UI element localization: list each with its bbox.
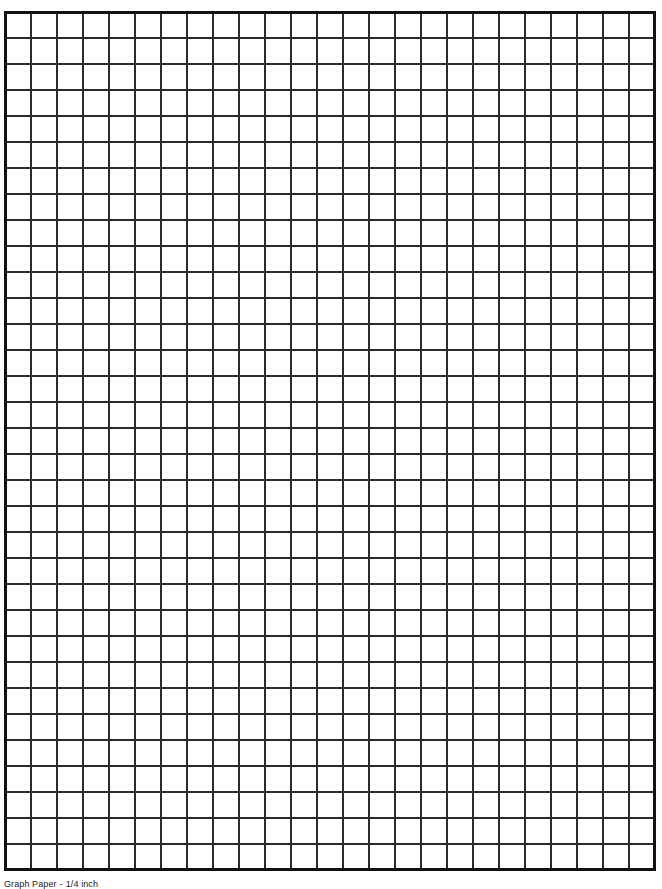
footer-caption: Graph Paper-1/4 inch xyxy=(4,879,98,889)
graph-paper-grid xyxy=(4,11,654,869)
footer-caption-scale: 1/4 inch xyxy=(66,879,98,889)
footer-caption-title: Graph Paper xyxy=(4,879,57,889)
footer-caption-separator: - xyxy=(57,879,66,889)
